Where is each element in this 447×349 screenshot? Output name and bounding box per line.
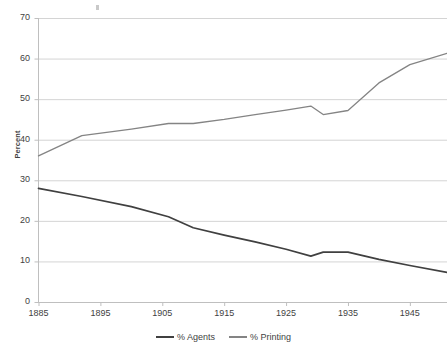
legend-item-printing: % Printing <box>229 332 291 342</box>
x-tick-label: 1885 <box>19 308 59 318</box>
x-tick-label: 1925 <box>266 308 306 318</box>
x-tick-label: 1935 <box>328 308 368 318</box>
series-line-agents <box>39 188 447 272</box>
plot-area <box>0 0 447 349</box>
x-tick-label: 1905 <box>142 308 182 318</box>
x-tick-label: 1945 <box>390 308 430 318</box>
line-chart: Percent 010203040506070 1885189519051915… <box>0 0 447 349</box>
x-tick-label: 1915 <box>204 308 244 318</box>
x-tick-label: 1895 <box>80 308 120 318</box>
chart-legend: % Agents % Printing <box>0 332 447 342</box>
data-series <box>39 53 447 272</box>
legend-label-printing: % Printing <box>250 332 291 342</box>
y-tick-label: 50 <box>4 93 30 103</box>
y-axis-title: Percent <box>13 115 22 175</box>
y-tick-label: 20 <box>4 215 30 225</box>
y-tick-label: 60 <box>4 53 30 63</box>
legend-item-agents: % Agents <box>156 332 215 342</box>
y-tick-label: 40 <box>4 134 30 144</box>
legend-swatch-agents <box>156 336 174 338</box>
legend-swatch-printing <box>229 336 247 338</box>
axis-lines <box>38 18 447 303</box>
gridlines <box>39 19 447 262</box>
y-tick-label: 30 <box>4 174 30 184</box>
y-tick-label: 0 <box>4 296 30 306</box>
y-tick-label: 10 <box>4 255 30 265</box>
legend-label-agents: % Agents <box>177 332 215 342</box>
y-tick-marks <box>35 19 39 303</box>
y-tick-label: 70 <box>4 12 30 22</box>
